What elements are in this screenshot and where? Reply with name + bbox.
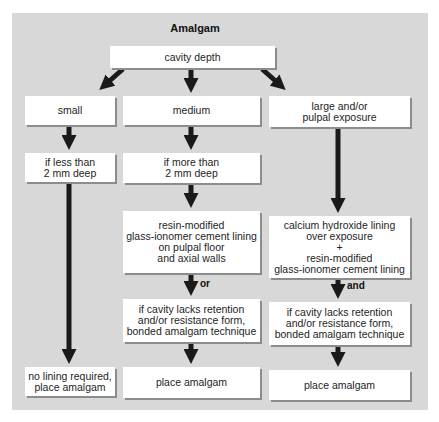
root-box-cavity-depth: cavity depth: [110, 46, 275, 68]
connector-or: or: [200, 278, 210, 289]
box-resin-lining-medium: resin-modified glass-ionomer cement lini…: [123, 211, 260, 273]
box-less-than-2mm: if less than 2 mm deep: [25, 153, 115, 182]
box-large-pulpal-exposure: large and/or pulpal exposure: [269, 96, 410, 127]
box-bonded-amalgam-large: if cavity lacks retention and/or resista…: [269, 302, 410, 345]
box-place-amalgam-medium: place amalgam: [123, 367, 260, 398]
box-more-than-2mm: if more than 2 mm deep: [123, 153, 260, 183]
box-calcium-hydroxide: calcium hydroxide lining over exposure +…: [269, 216, 410, 278]
arrow-root-to-large: [262, 69, 279, 84]
box-small: small: [25, 96, 115, 125]
arrow-root-to-small: [106, 69, 123, 84]
box-place-amalgam-large: place amalgam: [269, 370, 410, 400]
box-no-lining: no lining required, place amalgam: [25, 367, 115, 396]
box-medium: medium: [123, 96, 260, 125]
connector-and: and: [347, 280, 365, 291]
box-bonded-amalgam-medium: if cavity lacks retention and/or resista…: [123, 299, 260, 342]
